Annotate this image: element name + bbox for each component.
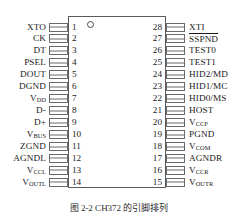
pin-lead-21 <box>166 106 185 115</box>
pin-lead-24 <box>166 70 185 79</box>
pin-label-22: HID0/MS <box>185 93 238 104</box>
pin-number-15: 15 <box>136 176 162 188</box>
pin-label-2: CK <box>0 33 49 44</box>
pin-label-9: D+ <box>0 117 49 128</box>
pin-20: VCCP <box>166 117 238 129</box>
pin-number-24: 24 <box>136 68 162 80</box>
pin-label-3: DT <box>0 45 49 56</box>
pin-number-3: 3 <box>72 44 98 56</box>
pin-label-1: XTO <box>0 22 49 33</box>
pin-number-1: 1 <box>72 21 98 33</box>
pin-number-6: 6 <box>72 80 98 92</box>
pin-label-15: VOUTR <box>185 177 238 188</box>
pin-15: VOUTR <box>166 176 238 188</box>
pin-label-11: ZGND <box>0 141 49 152</box>
pin-lead-17 <box>166 154 185 163</box>
pin-label-23: HID1/MC <box>185 81 238 92</box>
pin-number-20: 20 <box>136 116 162 128</box>
pin-16: VCCR <box>166 164 238 176</box>
pin-number-19: 19 <box>136 128 162 140</box>
pin-number-18: 18 <box>136 140 162 152</box>
pin-number-10: 10 <box>72 128 98 140</box>
pin-number-8: 8 <box>72 104 98 116</box>
pin-21: HOST <box>166 105 238 117</box>
pin-lead-26 <box>166 46 185 55</box>
pin-lead-5 <box>49 70 68 79</box>
pin-label-6: DGND <box>0 81 49 92</box>
pin-label-4: PSEL <box>0 57 49 68</box>
pin-number-7: 7 <box>72 92 98 104</box>
pin-4: PSEL <box>0 57 68 69</box>
pin-19: PGND <box>166 129 238 141</box>
pin-lead-13 <box>49 166 68 175</box>
chip-pinout-figure: XTOCKDTPSELDOUTDGNDVDDD-D+VBUSZGNDAGNDLV… <box>0 0 238 213</box>
pin-number-22: 22 <box>136 92 162 104</box>
pin-number-13: 13 <box>72 164 98 176</box>
pin-lead-11 <box>49 142 68 151</box>
pin-lead-20 <box>166 118 185 127</box>
pin-10: VBUS <box>0 129 68 141</box>
pin-label-20: VCCP <box>185 117 238 128</box>
pin-2: CK <box>0 33 68 45</box>
pin-lead-7 <box>49 94 68 103</box>
pin-lead-25 <box>166 58 185 67</box>
pin-7: VDD <box>0 93 68 105</box>
pin-13: VCCL <box>0 164 68 176</box>
pin-9: D+ <box>0 117 68 129</box>
pin-lead-8 <box>49 106 68 115</box>
pin-lead-10 <box>49 130 68 139</box>
pin-label-17: AGNDR <box>185 153 238 164</box>
pin-23: HID1/MC <box>166 81 238 93</box>
pin-number-25: 25 <box>136 56 162 68</box>
pin-label-19: PGND <box>185 129 238 140</box>
pin-11: ZGND <box>0 141 68 153</box>
pin-lead-15 <box>166 178 185 187</box>
pin-number-2: 2 <box>72 32 98 44</box>
pin-14: VOUTL <box>0 176 68 188</box>
pin-number-16: 16 <box>136 164 162 176</box>
pin-number-5: 5 <box>72 68 98 80</box>
pin-lead-28 <box>166 23 185 32</box>
pin-label-14: VOUTL <box>0 177 49 188</box>
pin-lead-27 <box>166 34 185 43</box>
pin-lead-14 <box>49 178 68 187</box>
pin-number-9: 9 <box>72 116 98 128</box>
pin-label-5: DOUT <box>0 69 49 80</box>
pin-12: AGNDL <box>0 152 68 164</box>
pin-lead-4 <box>49 58 68 67</box>
pin-6: DGND <box>0 81 68 93</box>
pin-lead-9 <box>49 118 68 127</box>
pin-lead-12 <box>49 154 68 163</box>
pin-number-14: 14 <box>72 176 98 188</box>
pin-label-12: AGNDL <box>0 153 49 164</box>
pin-number-23: 23 <box>136 80 162 92</box>
pin-label-10: VBUS <box>0 129 49 140</box>
pin-8: D- <box>0 105 68 117</box>
pin-label-16: VCCR <box>185 165 238 176</box>
pin-5: DOUT <box>0 69 68 81</box>
pin-label-13: VCCL <box>0 165 49 176</box>
pin-label-8: D- <box>0 105 49 116</box>
pin-lead-22 <box>166 94 185 103</box>
pin-label-25: TEST1 <box>185 57 238 68</box>
pin-22: HID0/MS <box>166 93 238 105</box>
pin-lead-16 <box>166 166 185 175</box>
pin-number-17: 17 <box>136 152 162 164</box>
pin-lead-3 <box>49 46 68 55</box>
pin-lead-1 <box>49 23 68 32</box>
pin-lead-19 <box>166 130 185 139</box>
pin-label-7: VDD <box>0 93 49 104</box>
pin-number-27: 27 <box>136 32 162 44</box>
pin-lead-6 <box>49 82 68 91</box>
pin-label-24: HID2/MD <box>185 69 238 80</box>
pin-24: HID2/MD <box>166 69 238 81</box>
pin-18: VCOM <box>166 141 238 153</box>
pin-17: AGNDR <box>166 152 238 164</box>
pin-number-28: 28 <box>136 21 162 33</box>
pin-lead-23 <box>166 82 185 91</box>
pin-number-21: 21 <box>136 104 162 116</box>
pin-lead-2 <box>49 34 68 43</box>
pin-label-21: HOST <box>185 105 238 116</box>
pin-28: XTI <box>166 21 238 33</box>
pin-label-28: XTI <box>185 22 238 33</box>
